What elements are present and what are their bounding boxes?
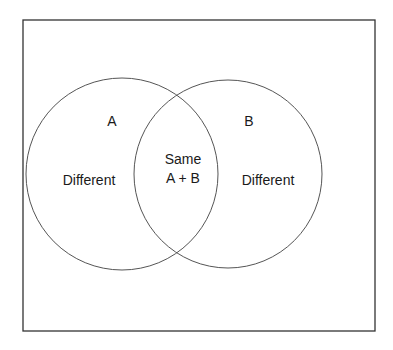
intersection-label-line2: A + B xyxy=(166,170,200,186)
set-b-region-label: Different xyxy=(242,172,295,188)
set-a-label: A xyxy=(107,113,117,129)
intersection-label-line1: Same xyxy=(165,151,202,167)
set-b-label: B xyxy=(244,113,253,129)
venn-diagram: A Different B Different Same A + B xyxy=(0,0,393,350)
set-a-region-label: Different xyxy=(63,172,116,188)
